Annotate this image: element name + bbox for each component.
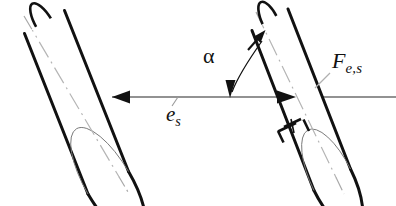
axis-label-es: es xyxy=(166,104,181,128)
axis-label-es-base: e xyxy=(166,102,175,126)
force-label-fes: Fe,s xyxy=(332,50,362,76)
figure-canvas: es α Fe,s xyxy=(0,0,396,206)
angle-label-alpha: α xyxy=(203,45,215,67)
angle-alpha-indicator xyxy=(226,41,263,98)
force-label-base: F xyxy=(332,48,345,73)
right-cylinder xyxy=(248,0,363,206)
force-label-subscript: e,s xyxy=(345,60,362,76)
technical-diagram xyxy=(0,0,396,206)
arrowhead-down-icon xyxy=(226,80,236,98)
reference-axis-group xyxy=(112,97,396,106)
left-cylinder xyxy=(24,0,146,206)
force-tick-lower-stem xyxy=(278,131,284,143)
axis-label-es-subscript: s xyxy=(175,113,181,129)
arrowhead-left-icon xyxy=(112,91,130,104)
right-cylinder-body-fill xyxy=(252,9,351,191)
